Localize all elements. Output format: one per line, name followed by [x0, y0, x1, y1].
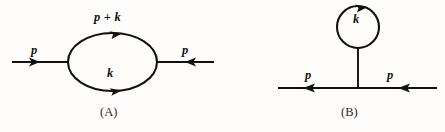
diagram-b-external-left-label: p — [305, 68, 311, 83]
feynman-diagram-svg: .stroke { fill: none; stroke: #111111; s… — [0, 0, 445, 132]
diagram-a-loop-bottom-label: k — [107, 66, 113, 81]
diagram-a-external-left-label: p — [31, 43, 37, 58]
diagram-b-loop-label: k — [353, 12, 359, 27]
diagram-b-panel-label: (B) — [341, 105, 358, 120]
diagram-a-external-right-label: p — [182, 43, 188, 58]
figure-canvas: .stroke { fill: none; stroke: #111111; s… — [0, 0, 445, 132]
diagram-a-panel-label: (A) — [100, 105, 117, 120]
diagram-a-loop-top-label: p + k — [94, 10, 121, 25]
diagram-a-loop-bottom-arrowhead — [110, 88, 123, 96]
diagram-a-loop-ellipse — [68, 33, 157, 91]
diagram-b-external-right-label: p — [387, 68, 393, 83]
diagram-a-group — [12, 31, 214, 96]
